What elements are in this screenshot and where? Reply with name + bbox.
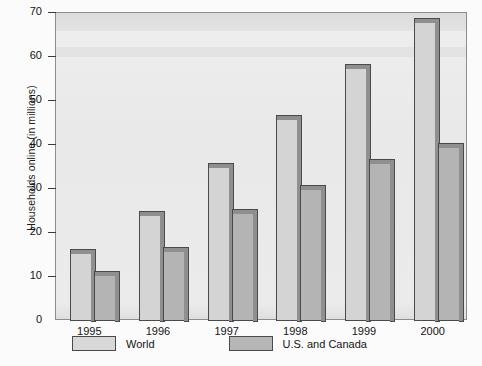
y-axis-tick: [48, 56, 56, 57]
y-axis-label: 60: [8, 50, 42, 61]
bar-shadow-top: [94, 271, 120, 276]
bar-shadow: [115, 272, 120, 322]
y-axis-label: 30: [8, 182, 42, 193]
bar-shadow-top: [139, 211, 165, 216]
bar-1996-us-canada: [163, 251, 185, 321]
bar-shadow-top: [208, 163, 234, 168]
bar-shadow: [459, 144, 464, 322]
legend-label-us-canada: U.S. and Canada: [283, 338, 367, 350]
legend-item-world: World: [72, 336, 155, 351]
y-axis-label: 20: [8, 226, 42, 237]
bar-shadow: [390, 160, 395, 322]
y-axis-tick: [48, 12, 56, 13]
world-swatch-icon: [72, 336, 116, 351]
y-axis-label: 70: [8, 6, 42, 17]
bar-shadow-top: [300, 185, 326, 190]
bar-1995-world: [70, 253, 92, 321]
bar-1995-us-canada: [94, 275, 116, 321]
bar-1997-world: [208, 167, 230, 321]
y-axis-tick: [48, 276, 56, 277]
bar-shadow: [253, 210, 258, 322]
bar-shadow-top: [276, 115, 302, 120]
y-axis-tick: [48, 100, 56, 101]
legend-label-world: World: [126, 338, 155, 350]
bar-shadow-top: [414, 18, 440, 23]
bar-shadow-top: [163, 247, 189, 252]
bar-1998-us-canada: [300, 189, 322, 321]
bar-1999-world: [345, 68, 367, 321]
us-canada-swatch-icon: [229, 336, 273, 351]
bar-shadow-top: [345, 64, 371, 69]
y-axis-title: Households online (in millions): [25, 43, 37, 273]
bar-1997-us-canada: [232, 213, 254, 321]
bar-shadow-top: [70, 249, 96, 254]
y-axis-tick: [48, 144, 56, 145]
y-axis-label: 0: [8, 314, 42, 325]
bar-shadow: [184, 248, 189, 322]
bar-shadow-top: [232, 209, 258, 214]
bar-2000-us-canada: [438, 147, 460, 321]
plot-area: [55, 12, 467, 320]
bar-2000-world: [414, 22, 436, 321]
x-axis-label-2000: 2000: [398, 325, 468, 337]
bar-shadow-top: [369, 159, 395, 164]
y-axis-label: 40: [8, 138, 42, 149]
bar-shadow: [321, 186, 326, 322]
y-axis-label: 10: [8, 270, 42, 281]
y-axis-tick: [48, 232, 56, 233]
bar-1996-world: [139, 215, 161, 321]
y-axis-label: 50: [8, 94, 42, 105]
bar-1998-world: [276, 119, 298, 321]
y-axis-tick: [48, 188, 56, 189]
chart-legend: World U.S. and Canada: [72, 336, 367, 351]
bar-chart: Households online (in millions) 01020304…: [0, 0, 482, 366]
legend-item-us-canada: U.S. and Canada: [229, 336, 367, 351]
bar-1999-us-canada: [369, 163, 391, 321]
bar-shadow-top: [438, 143, 464, 148]
